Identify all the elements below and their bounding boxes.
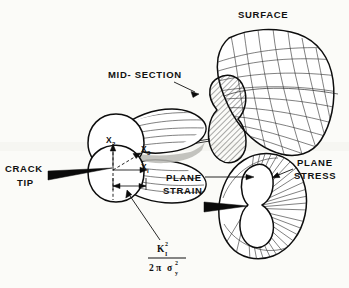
mid-section-label: MID- SECTION (108, 69, 182, 80)
plane-stress-label-line1: PLANE (297, 157, 333, 168)
plane-stress-label-line2: STRESS (294, 170, 336, 181)
formula-denominator-sup-2: 2 (175, 260, 178, 266)
formula-numerator-K: K (157, 244, 165, 254)
fracture-mechanics-figure: X 2 X 3 X I (0, 0, 349, 288)
formula-denominator-2: 2 (149, 263, 154, 273)
surface-label: SURFACE (238, 9, 288, 20)
plane-strain-label-line1: PLANE (166, 172, 202, 183)
crack-tip-label-line1: CRACK (5, 163, 43, 174)
formula-denominator-sigma: σ (167, 263, 173, 273)
formula-denominator-pi: π (156, 263, 162, 273)
crack-tip-label-line2: TIP (17, 177, 34, 188)
formula-denominator-sub-y: y (175, 270, 178, 276)
formula-numerator-sup-2: 2 (165, 241, 168, 247)
plane-strain-label-line2: STRAIN (163, 185, 203, 196)
